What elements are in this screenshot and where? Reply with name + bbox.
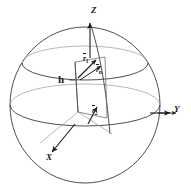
inner-quadrilateral-panel xyxy=(75,57,107,118)
height-segment xyxy=(75,62,78,112)
sphere-outline xyxy=(10,27,160,183)
vector-r-lower-label: r2 xyxy=(92,107,98,115)
vector-r-upper-subscript: 1 xyxy=(86,58,89,64)
vector-r-lower-subscript: 2 xyxy=(95,110,98,116)
height-label: h xyxy=(58,74,64,85)
vector-r-mid-label: rn xyxy=(96,66,102,74)
x-axis-label: X xyxy=(46,153,52,162)
x-axis-line xyxy=(52,124,75,152)
figure-canvas xyxy=(0,0,191,195)
y-axis-label: Y xyxy=(174,105,180,114)
equator-circle-back xyxy=(10,84,160,105)
z-axis-label: Z xyxy=(91,6,97,15)
spherical-geometry-figure: Z Y X h r1 rn r2 xyxy=(0,0,191,195)
equator-circle-front xyxy=(10,105,160,126)
vector-r-upper-label: r1 xyxy=(83,55,89,63)
vector-r-mid-subscript: n xyxy=(99,69,102,75)
